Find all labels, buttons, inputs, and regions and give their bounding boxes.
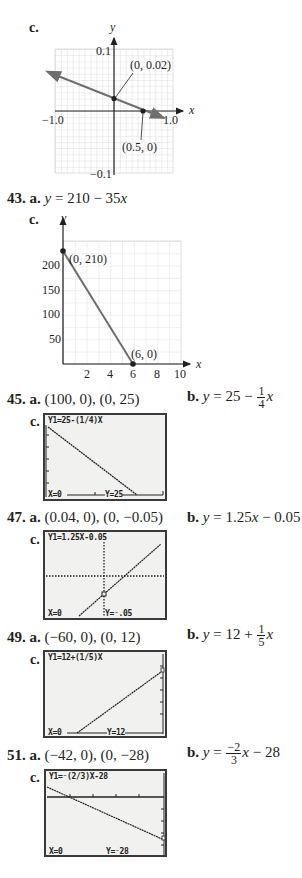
- x-axis-label: x: [189, 103, 194, 118]
- part-b-label: b.: [187, 626, 199, 642]
- x-axis-label: x: [196, 357, 201, 372]
- item-number: 49.: [7, 629, 26, 645]
- screen-equation: Y1=12+(1/5)X: [48, 653, 102, 662]
- eq-tail: − 28: [249, 744, 280, 760]
- part-c-label: c.: [30, 414, 40, 430]
- graph-43c: [0, 200, 302, 400]
- fraction: 15: [257, 623, 265, 648]
- fraction: −23: [226, 741, 241, 766]
- screen-y-value: Y=⁻.05: [105, 609, 132, 618]
- y-tick-100: 100: [42, 307, 60, 322]
- item-number: 51.: [7, 747, 26, 763]
- item-45-answer-a: 45. a. (100, 0), (0, 25): [7, 391, 139, 408]
- calculator-screen-49: Y1=12+(1/5)X X=0 Y=12: [43, 650, 167, 738]
- screen-y-value: Y=⁻28: [106, 847, 129, 856]
- screen-x-value: X=0: [49, 847, 63, 856]
- item-49-answer-a: 49. a. (−60, 0), (0, 12): [7, 629, 140, 646]
- x-tick-6: 6: [130, 367, 136, 382]
- point-label-y-intercept: (0, 210): [69, 252, 107, 267]
- eq-var-y: y: [203, 388, 210, 404]
- calculator-screen-51: Y1=⁻(2/3)X-28 X=0 Y=⁻28: [44, 769, 167, 857]
- part-c-label: c.: [30, 532, 40, 548]
- screen-plot: [43, 650, 167, 738]
- eq-body: = 25 −: [210, 388, 257, 404]
- y-tick-150: 150: [42, 283, 60, 298]
- item-51-answer-b: b. y = −23x − 28: [187, 741, 280, 766]
- screen-y-value: Y=25: [105, 490, 123, 499]
- y-axis-label: y: [110, 20, 115, 35]
- eq-body: = 1.25: [210, 509, 252, 525]
- screen-x-value: X=0: [48, 728, 62, 737]
- screen-x-value: X=0: [48, 609, 62, 618]
- calculator-screen-45: Y1=25-(1/4)X X=0 Y=25: [43, 413, 167, 501]
- y-tick-200: 200: [42, 258, 60, 273]
- part-c-label: c.: [30, 770, 40, 786]
- eq-var-y: y: [203, 626, 210, 642]
- point-label-intercept-y: (0, 0.02): [130, 58, 171, 73]
- screen-equation: Y1=1.25X-0.05: [48, 533, 107, 542]
- y-max-label: 0.1: [96, 44, 111, 59]
- eq-var-x: x: [242, 744, 249, 760]
- answer-a-text: (0.04, 0), (0, −0.05): [45, 509, 163, 525]
- x-tick-4: 4: [107, 367, 113, 382]
- x-tick-10: 10: [174, 367, 186, 382]
- screen-x-value: X=0: [48, 490, 62, 499]
- part-b-label: b.: [187, 509, 199, 525]
- part-a-label: a.: [30, 509, 41, 525]
- point-label-intercept-x: (0.5, 0): [122, 140, 157, 155]
- eq-var-x: x: [266, 626, 273, 642]
- x-min-label: −1.0: [42, 113, 64, 128]
- screen-plot: [43, 530, 167, 620]
- x-max-label: 1.0: [163, 113, 178, 128]
- eq-var-y: y: [203, 744, 210, 760]
- calculator-screen-47: Y1=1.25X-0.05 X=0 Y=⁻.05: [43, 530, 167, 620]
- answer-a-text: (−60, 0), (0, 12): [45, 629, 141, 645]
- item-47-answer-a: 47. a. (0.04, 0), (0, −0.05): [7, 509, 163, 526]
- eq-body: =: [210, 744, 226, 760]
- part-a-label: a.: [30, 629, 41, 645]
- item-47-answer-b: b. y = 1.25x − 0.05: [187, 509, 301, 526]
- answer-a-text: (100, 0), (0, 25): [45, 391, 140, 407]
- item-number: 45.: [7, 391, 26, 407]
- part-b-label: b.: [187, 388, 199, 404]
- point-label-x-intercept: (6, 0): [131, 347, 157, 362]
- y-tick-50: 50: [49, 332, 61, 347]
- part-c-label: c.: [30, 652, 40, 668]
- eq-var-x: x: [266, 388, 273, 404]
- item-49-answer-b: b. y = 12 + 15x: [187, 623, 273, 648]
- part-b-label: b.: [187, 744, 199, 760]
- x-tick-2: 2: [84, 367, 90, 382]
- part-a-label: a.: [30, 747, 41, 763]
- fraction-denominator: 4: [257, 398, 265, 410]
- eq-body: = 12 +: [210, 626, 257, 642]
- y-axis-label: y: [61, 211, 66, 226]
- fraction-denominator: 5: [257, 636, 265, 648]
- screen-equation: Y1=⁻(2/3)X-28: [49, 772, 108, 781]
- y-min-label: −0.1: [90, 167, 112, 182]
- item-45-answer-b: b. y = 25 − 14x: [187, 385, 273, 410]
- screen-y-value: Y=12: [107, 728, 125, 737]
- fraction: 14: [257, 385, 265, 410]
- part-a-label: a.: [30, 391, 41, 407]
- item-number: 47.: [7, 509, 26, 525]
- item-51-answer-a: 51. a. (−42, 0), (0, −28): [7, 747, 149, 764]
- eq-var-y: y: [203, 509, 210, 525]
- eq-tail: − 0.05: [258, 509, 300, 525]
- screen-plot: [43, 413, 167, 501]
- fraction-denominator: 3: [226, 754, 241, 766]
- x-tick-8: 8: [154, 367, 160, 382]
- screen-plot: [44, 769, 167, 857]
- answer-a-text: (−42, 0), (0, −28): [45, 747, 149, 763]
